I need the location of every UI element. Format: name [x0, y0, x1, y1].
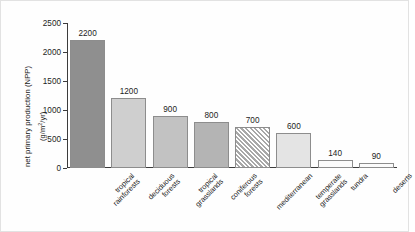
bar-mediterranean	[235, 127, 270, 168]
bar-value-label: 600	[287, 122, 301, 131]
bar-deserts	[359, 163, 394, 168]
y-axis-units: (g/m2/yr)	[37, 112, 47, 141]
x-tick-label-tundra: tundra	[349, 172, 370, 193]
bar-value-label: 140	[328, 149, 342, 158]
y-axis-line	[67, 23, 68, 168]
y-tick-label: 0	[56, 164, 61, 173]
bar-tundra	[318, 160, 353, 168]
y-tick-mark	[63, 81, 67, 82]
bar-coniferous-forests	[194, 122, 229, 168]
x-tick-label-coniferous-forests: coniferousforests	[229, 172, 265, 208]
x-tick-label-tropical-grasslands: tropicalgrasslands	[189, 172, 226, 209]
bar-value-label: 2200	[79, 29, 97, 38]
x-tick-label-mediterranean: mediterranean	[275, 172, 315, 212]
bar-tropical-grasslands	[153, 116, 188, 168]
y-axis-title: net primary production (NPP)	[23, 66, 32, 167]
bar-value-label: 90	[372, 152, 381, 161]
y-tick-mark	[63, 52, 67, 53]
bar-value-label: 1200	[120, 87, 138, 96]
bar-value-label: 800	[205, 111, 219, 120]
y-tick-mark	[63, 139, 67, 140]
y-tick-mark	[63, 168, 67, 169]
bar-value-label: 900	[163, 105, 177, 114]
bar-temperate-grasslands	[276, 133, 311, 168]
x-tick-label-deciduous-forests: deciduousforests	[147, 172, 183, 208]
y-tick-label: 2000	[43, 48, 61, 57]
y-tick-mark	[63, 110, 67, 111]
y-tick-label: 1000	[43, 106, 61, 115]
bar-value-label: 700	[246, 116, 260, 125]
x-tick-label-tropical-rainforests: tropicalrainforests	[106, 172, 142, 208]
x-tick-label-temperate-grasslands: temperategrasslands	[312, 172, 349, 209]
y-tick-label: 1500	[43, 77, 61, 86]
y-tick-mark	[63, 23, 67, 24]
y-tick-label: 2500	[43, 19, 61, 28]
y-axis-title-group: net primary production (NPP) (g/m2/yr)	[7, 13, 53, 173]
bar-tropical-rainforests	[70, 40, 105, 168]
bar-deciduous-forests	[111, 98, 146, 168]
plot-area: 05001000150020002500 2200120090080070060…	[67, 23, 397, 168]
x-tick-label-deserts: deserts	[391, 172, 414, 195]
y-tick-label: 500	[47, 135, 61, 144]
